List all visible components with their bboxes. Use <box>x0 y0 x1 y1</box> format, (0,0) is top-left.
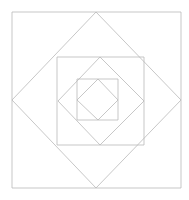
figure-canvas <box>0 0 189 200</box>
diagram-background <box>0 0 189 200</box>
nested-squares-diagram <box>0 0 189 200</box>
